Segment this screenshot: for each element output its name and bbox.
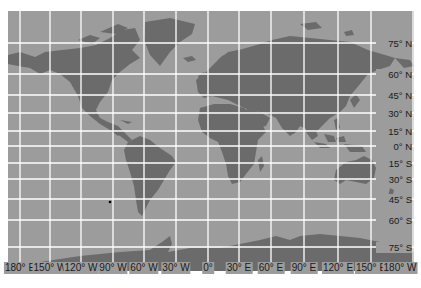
lat-label-45n: 45° N (376, 90, 412, 101)
lat-label-15n: 15° N (376, 126, 412, 137)
australia (334, 156, 376, 184)
south-america (124, 136, 176, 216)
lon-label-150w: 150° W (33, 262, 68, 274)
lon-label-120w: 120° W (64, 262, 99, 274)
lon-label-180e: 180° E (4, 262, 36, 274)
world-map (8, 11, 414, 271)
lon-label-30e: 30° E (226, 262, 253, 274)
lat-label-0n: 0° N (376, 141, 412, 152)
lat-label-15s: 15° S (376, 158, 412, 169)
location-marker (109, 201, 112, 204)
lon-label-120e: 120° E (322, 262, 354, 274)
lon-label-60w: 60° W (129, 262, 158, 274)
bottom-margin (0, 278, 421, 288)
lon-label-90w: 90° W (98, 262, 127, 274)
lat-label-60n: 60° N (376, 69, 412, 80)
lon-label-30w: 30° W (161, 262, 190, 274)
lon-label-180w: 180° W (383, 262, 418, 274)
lon-label-0: 0° (202, 262, 214, 274)
lon-label-90e: 90° E (291, 262, 318, 274)
lat-label-60s: 60° S (376, 215, 412, 226)
latitude-gridlines (8, 43, 414, 247)
lon-label-60e: 60° E (258, 262, 285, 274)
lat-label-30s: 30° S (376, 174, 412, 185)
longitude-labels: 180° E 150° W 120° W 90° W 60° W 30° W 0… (0, 262, 421, 278)
lat-label-75n: 75° N (376, 38, 412, 49)
lat-label-75s: 75° S (376, 242, 412, 253)
lat-label-45s: 45° S (376, 194, 412, 205)
lat-label-30n: 30° N (376, 108, 412, 119)
map-landmasses (8, 11, 414, 271)
